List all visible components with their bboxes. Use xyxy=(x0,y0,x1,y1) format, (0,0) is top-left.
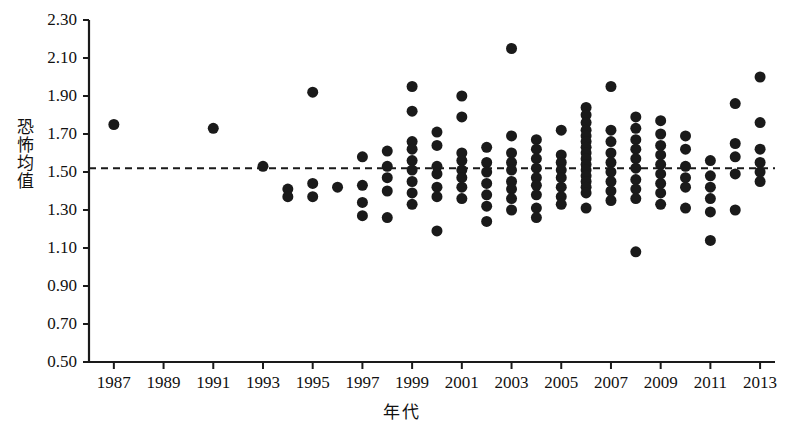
data-point xyxy=(506,148,517,159)
data-point xyxy=(655,187,666,198)
data-point xyxy=(605,125,616,136)
data-point xyxy=(531,163,542,174)
data-point xyxy=(357,197,368,208)
x-tick-label: 1997 xyxy=(334,374,390,391)
data-point xyxy=(506,130,517,141)
data-point xyxy=(605,148,616,159)
x-tick-label: 2013 xyxy=(732,374,788,391)
data-point xyxy=(730,168,741,179)
y-tick-label: 1.30 xyxy=(25,201,77,218)
data-point xyxy=(680,144,691,155)
data-point xyxy=(357,151,368,162)
data-point xyxy=(655,149,666,160)
data-point xyxy=(431,182,442,193)
data-point xyxy=(282,191,293,202)
data-point xyxy=(431,140,442,151)
data-point xyxy=(680,203,691,214)
data-point xyxy=(407,81,418,92)
data-point xyxy=(730,98,741,109)
data-point xyxy=(655,115,666,126)
data-point xyxy=(481,167,492,178)
data-point xyxy=(605,136,616,147)
data-points-group xyxy=(108,43,765,257)
data-point xyxy=(605,195,616,206)
data-point xyxy=(755,167,766,178)
x-tick-label: 2007 xyxy=(583,374,639,391)
data-point xyxy=(630,193,641,204)
data-point xyxy=(705,206,716,217)
x-tick-label: 2011 xyxy=(682,374,738,391)
x-tick-label: 1989 xyxy=(136,374,192,391)
data-point xyxy=(307,191,318,202)
data-point xyxy=(382,186,393,197)
data-point xyxy=(630,184,641,195)
data-point xyxy=(730,151,741,162)
data-point xyxy=(456,155,467,166)
data-point xyxy=(431,127,442,138)
x-tick-label: 1995 xyxy=(285,374,341,391)
data-point xyxy=(581,203,592,214)
data-point xyxy=(456,91,467,102)
data-point xyxy=(705,170,716,181)
data-point xyxy=(556,172,567,183)
data-point xyxy=(382,161,393,172)
y-tick-label: 2.30 xyxy=(25,11,77,28)
data-point xyxy=(680,161,691,172)
data-point xyxy=(481,189,492,200)
data-point xyxy=(257,161,268,172)
data-point xyxy=(630,111,641,122)
data-point xyxy=(431,168,442,179)
data-point xyxy=(630,144,641,155)
data-point xyxy=(407,144,418,155)
y-tick-label: 2.10 xyxy=(25,49,77,66)
x-tick-label: 1991 xyxy=(185,374,241,391)
data-point xyxy=(630,123,641,134)
data-point xyxy=(655,199,666,210)
y-tick-label: 0.90 xyxy=(25,277,77,294)
data-point xyxy=(407,155,418,166)
data-point xyxy=(357,210,368,221)
data-point xyxy=(407,106,418,117)
data-point xyxy=(307,87,318,98)
data-point xyxy=(481,201,492,212)
data-point xyxy=(456,172,467,183)
x-tick-label: 1987 xyxy=(86,374,142,391)
data-point xyxy=(755,117,766,128)
plot-area xyxy=(0,0,790,428)
data-point xyxy=(655,168,666,179)
data-point xyxy=(456,193,467,204)
data-point xyxy=(481,216,492,227)
data-point xyxy=(680,130,691,141)
data-point xyxy=(307,178,318,189)
y-tick-label: 1.70 xyxy=(25,125,77,142)
data-point xyxy=(531,180,542,191)
data-point xyxy=(456,111,467,122)
x-tick-label: 2005 xyxy=(533,374,589,391)
data-point xyxy=(705,193,716,204)
data-point xyxy=(506,205,517,216)
data-point xyxy=(208,123,219,134)
data-point xyxy=(531,144,542,155)
data-point xyxy=(705,182,716,193)
data-point xyxy=(407,165,418,176)
data-point xyxy=(680,182,691,193)
data-point xyxy=(407,176,418,187)
data-point xyxy=(531,153,542,164)
data-point xyxy=(655,140,666,151)
data-point xyxy=(556,182,567,193)
y-tick-label: 1.90 xyxy=(25,87,77,104)
data-point xyxy=(481,178,492,189)
x-tick-label: 2009 xyxy=(633,374,689,391)
data-point xyxy=(382,172,393,183)
data-point xyxy=(382,212,393,223)
data-point xyxy=(407,187,418,198)
data-point xyxy=(705,235,716,246)
data-point xyxy=(655,159,666,170)
data-point xyxy=(680,172,691,183)
y-tick-label: 0.70 xyxy=(25,315,77,332)
x-tick-label: 1999 xyxy=(384,374,440,391)
data-point xyxy=(431,191,442,202)
x-tick-label: 1993 xyxy=(235,374,291,391)
data-point xyxy=(755,176,766,187)
data-point xyxy=(506,184,517,195)
